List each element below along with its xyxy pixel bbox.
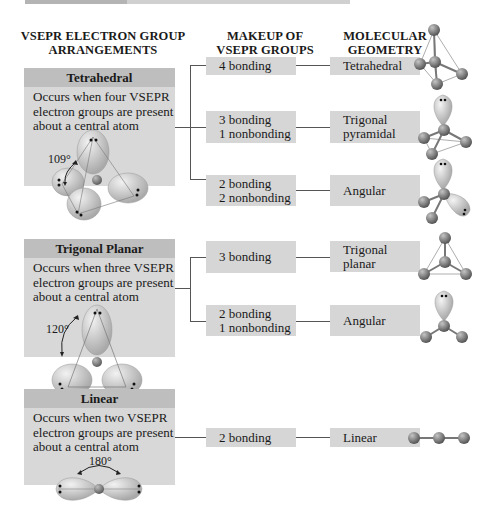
description-line: Occurs when two VSEPR xyxy=(33,411,175,426)
column-header-line: MAKEUP OF xyxy=(205,29,325,43)
connector xyxy=(296,257,331,258)
description-line: electron groups are present xyxy=(33,105,175,120)
geometry-label: planar xyxy=(343,257,420,271)
connector xyxy=(190,179,206,180)
connector xyxy=(296,321,331,322)
panel-description: Occurs when two VSEPR electron groups ar… xyxy=(24,408,175,455)
column-header-line: ARRANGEMENTS xyxy=(18,43,188,57)
makeup-box-3-bonding-1-nonbonding: 3 bonding 1 nonbonding xyxy=(206,111,296,143)
panel-title: Tetrahedral xyxy=(24,68,175,87)
trigonal-pyramidal-molecule-icon xyxy=(410,92,480,162)
column-header-arrangements: VSEPR ELECTRON GROUP ARRANGEMENTS xyxy=(18,29,188,57)
makeup-label: 1 nonbonding xyxy=(219,321,296,335)
tetrahedral-molecule-icon xyxy=(410,22,480,92)
panel-title: Linear xyxy=(24,389,175,408)
trigonal-planar-molecule-icon xyxy=(410,230,480,290)
makeup-box-3-bonding: 3 bonding xyxy=(206,241,296,273)
makeup-label: 1 nonbonding xyxy=(219,127,296,141)
linear-electron-model-icon xyxy=(52,462,148,508)
makeup-label: 4 bonding xyxy=(219,59,296,73)
description-line: Occurs when three VSEPR xyxy=(33,261,175,276)
trigonal-planar-electron-model-icon xyxy=(52,305,142,400)
linear-molecule-icon xyxy=(404,426,474,450)
geometry-label: Trigonal xyxy=(343,243,420,257)
description-line: Occurs when four VSEPR xyxy=(33,90,175,105)
connector xyxy=(296,190,331,191)
makeup-box-2-bonding-2-nonbonding: 2 bonding 2 nonbonding xyxy=(206,175,296,206)
makeup-label: 2 bonding xyxy=(219,307,296,321)
column-header-line: VSEPR GROUPS xyxy=(205,43,325,57)
angular-2-lone-pairs-molecule-icon xyxy=(410,158,480,230)
connector xyxy=(190,127,206,128)
geometry-label: Tetrahedral xyxy=(343,59,420,73)
geometry-label: Angular xyxy=(343,314,420,328)
makeup-box-4-bonding: 4 bonding xyxy=(206,57,296,75)
geometry-box-trigonal-pyramidal: Trigonal pyramidal xyxy=(330,111,420,143)
connector xyxy=(190,321,206,322)
makeup-box-2-bonding-linear: 2 bonding xyxy=(206,428,296,447)
panel-description: Occurs when three VSEPR electron groups … xyxy=(24,258,175,305)
panel-description: Occurs when four VSEPR electron groups a… xyxy=(24,87,175,134)
description-line: about a central atom xyxy=(33,440,175,455)
geometry-label: pyramidal xyxy=(343,127,420,141)
makeup-box-2-bonding-1-nonbonding: 2 bonding 1 nonbonding xyxy=(206,305,296,336)
column-header-makeup: MAKEUP OF VSEPR GROUPS xyxy=(205,29,325,57)
geometry-label: Angular xyxy=(343,184,420,198)
makeup-label: 3 bonding xyxy=(219,113,296,127)
panel-title: Trigonal Planar xyxy=(24,239,175,258)
connector xyxy=(296,127,331,128)
geometry-label: Trigonal xyxy=(343,113,420,127)
angular-1-lone-pair-molecule-icon xyxy=(410,291,480,351)
connector xyxy=(190,65,191,179)
makeup-label: 3 bonding xyxy=(219,250,296,264)
geometry-box-tetrahedral: Tetrahedral xyxy=(330,57,420,75)
top-bar-accent xyxy=(25,0,127,4)
makeup-label: 2 bonding xyxy=(219,177,296,191)
geometry-box-angular-trigonal: Angular xyxy=(330,305,420,336)
description-line: about a central atom xyxy=(33,290,175,305)
makeup-label: 2 bonding xyxy=(219,431,296,445)
connector xyxy=(175,437,206,438)
connector xyxy=(175,127,190,128)
makeup-label: 2 nonbonding xyxy=(219,191,296,205)
connector xyxy=(190,65,206,66)
connector xyxy=(190,257,206,258)
tetrahedral-electron-model-icon xyxy=(50,132,150,222)
connector xyxy=(190,257,191,321)
geometry-box-trigonal-planar: Trigonal planar xyxy=(330,241,420,272)
description-line: electron groups are present xyxy=(33,276,175,291)
column-header-line: VSEPR ELECTRON GROUP xyxy=(18,29,188,43)
description-line: electron groups are present xyxy=(33,426,175,441)
connector xyxy=(296,65,331,66)
connector xyxy=(296,437,331,438)
geometry-box-angular: Angular xyxy=(330,175,420,206)
connector xyxy=(175,288,190,289)
